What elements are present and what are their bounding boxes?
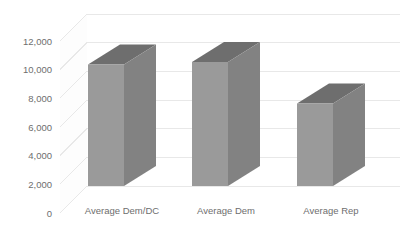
y-tick-label: 4,000 <box>28 150 52 161</box>
x-tick-label-average-dem-dc: Average Dem/DC <box>85 205 159 216</box>
x-axis-category-labels: Average Dem/DC Average Dem Average Rep <box>85 205 359 216</box>
bar-average-rep[interactable] <box>297 84 365 187</box>
y-tick-label: 12,000 <box>23 36 52 47</box>
chart-container: 12,000 10,000 8,000 6,000 4,000 2,000 0 … <box>0 0 410 232</box>
bar-average-dem-dc[interactable] <box>88 45 156 186</box>
y-axis-tick-labels: 12,000 10,000 8,000 6,000 4,000 2,000 0 <box>23 36 52 219</box>
bar-side-face <box>124 45 156 186</box>
bar-side-face <box>228 42 260 186</box>
y-tick-label: 2,000 <box>28 179 52 190</box>
y-tick-label: 10,000 <box>23 64 52 75</box>
y-tick-label: 6,000 <box>28 122 52 133</box>
bar-front-face <box>297 104 333 187</box>
y-tick-label: 0 <box>47 208 52 219</box>
bar-front-face <box>88 65 124 186</box>
bar-front-face <box>192 62 228 186</box>
x-tick-label-average-rep: Average Rep <box>303 205 358 216</box>
bar-average-dem[interactable] <box>192 42 260 186</box>
x-tick-label-average-dem: Average Dem <box>197 205 255 216</box>
y-tick-label: 8,000 <box>28 93 52 104</box>
bar-chart: 12,000 10,000 8,000 6,000 4,000 2,000 0 … <box>0 0 410 232</box>
